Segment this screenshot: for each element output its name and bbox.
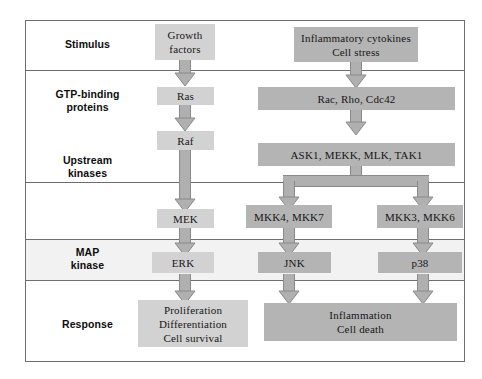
node-mek-label: MEK <box>173 212 198 226</box>
divider-upstream-mapk <box>25 239 465 240</box>
node-growth-factors[interactable]: Growth factors <box>155 24 215 60</box>
node-ras[interactable]: Ras <box>157 87 214 105</box>
node-ras-label: Ras <box>177 89 194 103</box>
node-growth-factors-line-1: Growth <box>168 28 203 42</box>
row-label-map-kinase: MAP kinase <box>40 246 135 272</box>
node-mkk4-mkk7-label: MKK4, MKK7 <box>254 210 324 224</box>
node-rac-rho-cdc42-label: Rac, Rho, Cdc42 <box>317 92 395 106</box>
connector-rac-ask1-head <box>345 121 367 136</box>
node-raf[interactable]: Raf <box>157 131 214 150</box>
node-p38[interactable]: p38 <box>378 252 462 273</box>
node-p38-label: p38 <box>411 256 428 270</box>
node-response-left-line-1: Proliferation <box>164 303 222 317</box>
node-raf-label: Raf <box>177 134 193 148</box>
node-ask1-mekk-mlk-tak1[interactable]: ASK1, MEKK, MLK, TAK1 <box>258 143 455 166</box>
node-response-inflammation[interactable]: Inflammation Cell death <box>264 303 457 341</box>
node-response-right-line-1: Inflammation <box>329 308 391 322</box>
node-erk-label: ERK <box>172 256 195 270</box>
node-response-right-line-2: Cell death <box>337 322 384 336</box>
node-mkk3-mkk6-label: MKK3, MKK6 <box>385 210 455 224</box>
node-mkk4-mkk7[interactable]: MKK4, MKK7 <box>246 205 332 228</box>
connector-branch-horizontal <box>283 175 429 187</box>
row-label-response: Response <box>40 318 135 331</box>
connector-ras-raf-head <box>174 117 196 132</box>
row-label-upstream-kinases: Upstream kinases <box>40 154 135 180</box>
divider-mapk-response <box>25 280 465 281</box>
node-mek[interactable]: MEK <box>157 209 214 228</box>
node-jnk-label: JNK <box>284 256 305 270</box>
node-cytokines-line-1: Inflammatory cytokines <box>301 31 411 45</box>
node-jnk[interactable]: JNK <box>258 252 331 273</box>
node-ask1-mekk-mlk-tak1-label: ASK1, MEKK, MLK, TAK1 <box>290 148 422 162</box>
row-label-stimulus: Stimulus <box>40 38 135 51</box>
node-cytokines[interactable]: Inflammatory cytokines Cell stress <box>294 27 418 62</box>
row-label-gtp-binding-proteins: GTP-binding proteins <box>40 88 135 114</box>
node-growth-factors-line-2: factors <box>169 42 200 56</box>
node-response-left-line-3: Cell survival <box>163 331 222 345</box>
connector-raf-mek-shaft <box>179 149 191 202</box>
node-response-proliferation[interactable]: Proliferation Differentiation Cell survi… <box>138 300 248 347</box>
node-response-left-line-2: Differentiation <box>159 317 227 331</box>
node-erk[interactable]: ERK <box>152 252 214 273</box>
diagram-canvas: Stimulus GTP-binding proteins Upstream k… <box>0 0 482 379</box>
divider-stimulus-gtp <box>25 70 465 71</box>
node-rac-rho-cdc42[interactable]: Rac, Rho, Cdc42 <box>258 87 455 110</box>
node-mkk3-mkk6[interactable]: MKK3, MKK6 <box>377 205 463 228</box>
connector-growthfactors-ras-head <box>174 72 196 87</box>
node-cytokines-line-2: Cell stress <box>332 45 380 59</box>
